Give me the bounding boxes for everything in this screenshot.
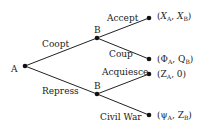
node-label-a: A: [10, 64, 18, 74]
edge-label-acquiesce: Acquiesce: [101, 67, 148, 77]
payoff-accept: (XA, XB): [157, 11, 191, 22]
terminal-node-4: [147, 113, 152, 118]
payoff-coup: (ΦA, QB): [157, 54, 193, 65]
node-label-b-upper: B: [94, 25, 101, 35]
edge-label-accept: Accept: [106, 13, 139, 23]
node-label-b-lower: B: [94, 81, 101, 91]
edge-label-civil-war: Civil War: [100, 112, 142, 122]
payoff-acquiesce: (ZA, 0): [157, 69, 186, 80]
edge-acquiesce: [97, 74, 149, 94]
terminal-node-1: [147, 16, 152, 21]
edge-label-coup: Coup: [109, 49, 133, 59]
edge-label-coopt: Coopt: [42, 39, 69, 49]
node-b-upper: [95, 36, 100, 41]
node-b-lower: [95, 92, 100, 97]
terminal-node-2: [147, 57, 152, 62]
node-root: [23, 64, 28, 69]
game-tree-diagram: A B B Coopt Repress Accept Coup Acquiesc…: [0, 0, 205, 128]
payoff-civil-war: (ψA, ZB): [157, 110, 192, 121]
edge-label-repress: Repress: [42, 86, 79, 96]
